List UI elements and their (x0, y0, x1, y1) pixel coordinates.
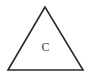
triangle-shape (8, 7, 83, 70)
triangle-label: C (0, 40, 86, 54)
triangle-diagram (0, 0, 86, 78)
